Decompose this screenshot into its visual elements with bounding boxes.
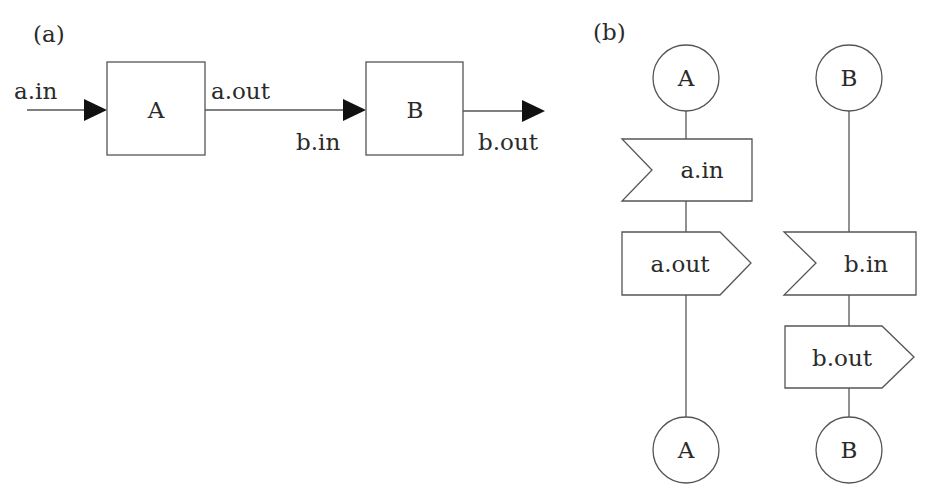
port-label-a-out: a.out — [211, 78, 271, 104]
panel-b-label: (b) — [593, 19, 626, 45]
input-signal-b-in-label: b.in — [844, 251, 888, 277]
arrow-icon — [84, 99, 107, 121]
process-column-b: B b.in b.out B — [784, 45, 916, 483]
process-column-a: A a.in a.out A — [622, 45, 752, 483]
arrow-icon — [343, 99, 366, 121]
panel-a: (a) a.in A a.out b.in B b.out — [14, 21, 545, 155]
box-b-label: B — [407, 97, 424, 123]
panel-a-label: (a) — [33, 21, 65, 47]
start-node-a-label: A — [677, 65, 695, 91]
port-label-b-in: b.in — [296, 129, 340, 155]
start-node-b-label: B — [841, 65, 858, 91]
output-signal-a-out-label: a.out — [651, 251, 711, 277]
arrow-icon — [522, 100, 545, 122]
port-label-a-in: a.in — [14, 78, 57, 104]
end-node-b-label: B — [841, 437, 858, 463]
end-node-a-label: A — [677, 437, 695, 463]
output-signal-b-out-label: b.out — [812, 345, 873, 371]
diagram-canvas: (a) a.in A a.out b.in B b.out (b) A — [0, 0, 934, 499]
port-label-b-out: b.out — [478, 129, 539, 155]
box-a-label: A — [147, 97, 165, 123]
input-signal-a-in-label: a.in — [680, 157, 723, 183]
panel-b: (b) A a.in a.out A B b.in — [593, 19, 916, 483]
